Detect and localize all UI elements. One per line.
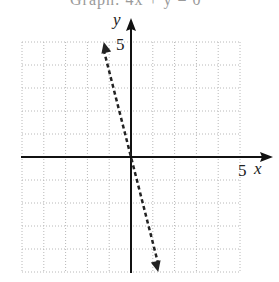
coordinate-plane: y 5 5 x xyxy=(0,0,279,282)
y-axis-label: y xyxy=(111,10,121,29)
x-axis xyxy=(21,152,273,162)
x-axis-label: x xyxy=(253,159,262,178)
y-tick-label: 5 xyxy=(116,35,125,54)
x-tick-label: 5 xyxy=(238,161,247,180)
